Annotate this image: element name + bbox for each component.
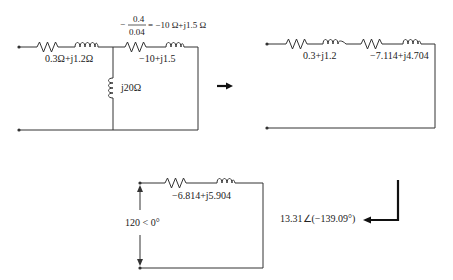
resistor-icon [286, 39, 307, 49]
arrow-right-icon [217, 83, 233, 90]
annotation-numerator: 0.4 [133, 14, 145, 24]
annotation-prefix: − [120, 19, 125, 29]
circuit-2: 0.3+j1.2 −7.114+j4.704 [265, 39, 435, 130]
source-voltage-label: 120 < 0° [125, 217, 160, 228]
impedance2-label: −7.114+j4.704 [370, 50, 429, 61]
annotation-result: = −10 Ω+j1.5 Ω [148, 20, 206, 30]
inductor-icon [217, 179, 235, 184]
annotation-denominator: 0.04 [129, 27, 145, 37]
series-impedance-label: 0.3Ω+j1.2Ω [45, 53, 93, 64]
circuit-3: 120 < 0° −6.814+j5.904 [125, 178, 263, 270]
inductor-icon [75, 43, 98, 48]
inductor-icon [166, 43, 184, 48]
branch-impedance-label: −10+j1.5 [139, 53, 176, 64]
shunt-inductor-label: j20Ω [120, 82, 141, 93]
circuit-diagram: 0.3Ω+j1.2Ω j20Ω −10+j1.5 − 0.4 0.04 = −1… [0, 0, 453, 280]
resistor-icon [125, 42, 146, 52]
equivalent-impedance-label: −6.814+j5.904 [172, 190, 231, 201]
impedance1-label: 0.3+j1.2 [303, 50, 336, 61]
inductor-icon [109, 78, 114, 98]
inductor-icon [403, 40, 421, 45]
inductor-icon [323, 40, 346, 45]
circuit-1: 0.3Ω+j1.2Ω j20Ω −10+j1.5 − 0.4 0.04 = −1… [17, 14, 206, 132]
arrow-down-left-icon [363, 180, 398, 224]
resistor-icon [361, 39, 382, 49]
resistor-icon [165, 178, 186, 188]
current-label: 13.31∠(−139.09°) [280, 213, 355, 225]
resistor-icon [37, 42, 58, 52]
